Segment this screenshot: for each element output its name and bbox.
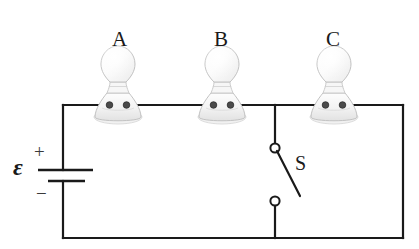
circuit-schematic [0,0,419,249]
emf-symbol-label: ε [13,155,23,179]
battery-plus-sign: + [34,142,45,161]
bulb-a-symbol[interactable] [94,46,142,124]
bulb-b-label: B [214,29,228,50]
bulb-c-symbol[interactable] [310,46,358,124]
bulb-b-symbol[interactable] [198,46,246,124]
bulb-a-label: A [112,29,127,50]
switch-bottom-terminal[interactable] [270,196,279,205]
battery-minus-sign: − [36,184,47,203]
bulb-c-label: C [326,29,340,50]
battery-symbol [38,170,93,181]
circuit-diagram-canvas: A B C ε + − S [0,0,419,249]
switch-label: S [295,153,306,173]
circuit-frame [63,105,403,238]
